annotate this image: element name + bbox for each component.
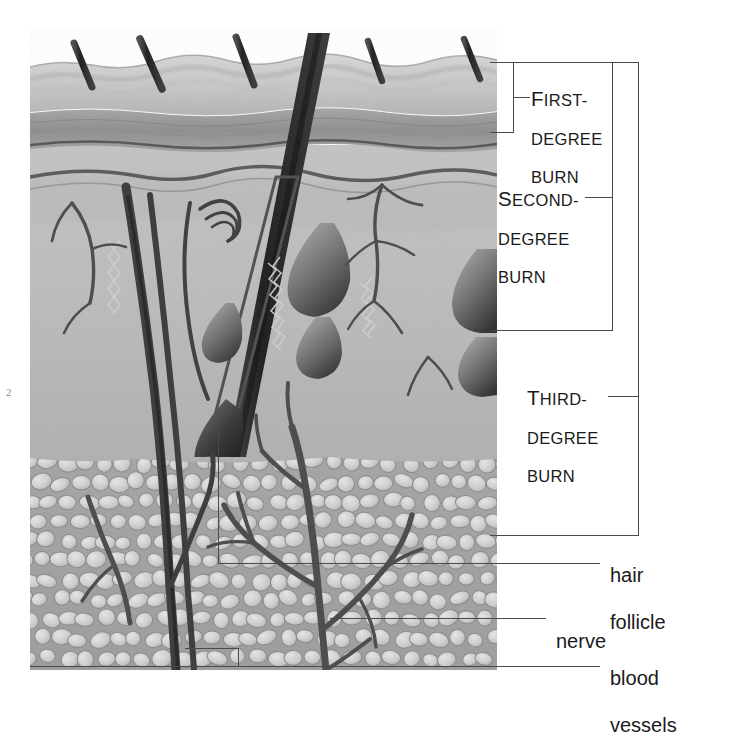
label-second-degree-line1: ECOND-: [512, 191, 579, 209]
bracket-third-degree-tick: [608, 396, 639, 397]
label-third-degree-line2: DEGREE: [527, 429, 598, 448]
label-first-degree-line1: IRST-: [544, 91, 588, 109]
label-third-degree-burn: THIRD- DEGREE BURN: [527, 367, 598, 506]
label-hair-follicle-line1: hair: [610, 564, 666, 587]
leader-blood-vessels-tick-riser: [238, 648, 239, 666]
label-first-degree-initial: F: [531, 87, 544, 110]
label-third-degree-line3: BURN: [527, 467, 598, 486]
label-third-degree-initial: T: [527, 386, 540, 409]
bracket-third-degree: [638, 62, 639, 535]
label-nerve-line1: nerve: [556, 630, 606, 653]
leader-hair-follicle: [218, 563, 600, 564]
label-hair-follicle-line2: follicle: [610, 611, 666, 634]
leader-nerve: [330, 618, 546, 619]
label-first-degree-line2: DEGREE: [531, 130, 602, 149]
leader-blood-vessels: [30, 666, 600, 667]
bracket-first-degree-bottom: [490, 132, 514, 133]
label-blood-vessels-line1: blood: [610, 667, 677, 690]
label-blood-vessels: blood vessels: [610, 644, 677, 736]
leader-hair-follicle-riser: [218, 432, 219, 563]
label-blood-vessels-line2: vessels: [610, 714, 677, 736]
page-edge-artifact: 2: [6, 386, 12, 398]
bracket-first-degree-tick: [513, 97, 530, 98]
label-second-degree-line2: DEGREE: [498, 230, 579, 249]
label-third-degree-line1: HIRD-: [540, 390, 587, 408]
skin-cross-section-illustration: [30, 27, 497, 670]
label-second-degree-line3: BURN: [498, 268, 579, 287]
bracket-third-degree-bottom: [490, 535, 639, 536]
label-nerve: nerve: [556, 607, 606, 677]
label-second-degree-initial: S: [498, 187, 512, 210]
bracket-second-degree-bottom: [490, 330, 613, 331]
leader-blood-vessels-tick-top: [185, 648, 238, 649]
label-hair-follicle: hair follicle: [610, 541, 666, 657]
label-second-degree-burn: SECOND- DEGREE BURN: [498, 168, 579, 307]
